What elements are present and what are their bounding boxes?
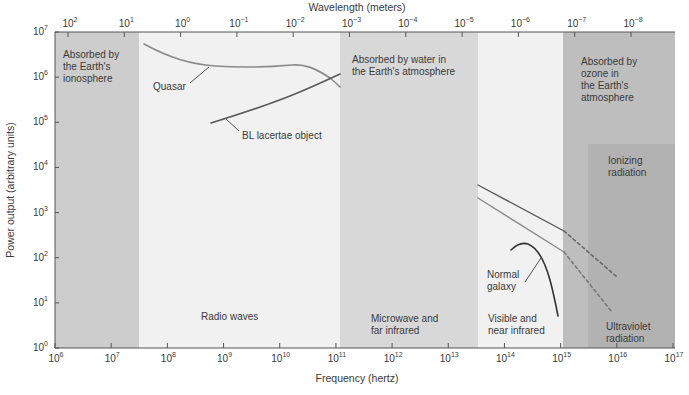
x2-tick-label: 101 [119,16,134,29]
x2-tick-label: 10−7 [567,16,586,29]
label-radio: Radio waves [201,311,258,322]
x-tick-label: 1014 [496,351,515,364]
x2-tick-label: 100 [175,16,190,29]
x2-tick-label: 10−4 [398,16,417,29]
y-tick-label: 107 [33,24,48,37]
x-tick-label: 106 [48,351,63,364]
band-water-microwave [340,32,478,348]
x-tick-label: 1017 [665,351,684,364]
x2-tick-label: 10−3 [342,16,361,29]
y-tick-label: 106 [33,69,48,82]
x2-tick-label: 10−1 [229,16,248,29]
label-visible: Visible and near infrared [488,313,545,336]
y-tick-label: 104 [33,159,48,172]
band-radio [139,32,340,348]
y-tick-label: 103 [33,205,48,218]
label-quasar: Quasar [153,81,186,92]
x-tick-label: 109 [217,351,232,364]
x-tick-label: 1016 [608,351,627,364]
y-tick-label: 100 [33,340,48,353]
label-ozone: Absorbed by ozone in the Earth's atmosph… [581,56,640,103]
x2-tick-label: 10−6 [511,16,530,29]
y-tick-label: 101 [33,295,48,308]
y-axis-title: Power output (arbitrary units) [4,122,16,257]
y-tick-label: 105 [33,114,48,127]
label-bllac: BL lacertae object [242,130,322,141]
spectrum-chart: 1061071081091010101110121013101410151016… [0,0,689,395]
x2-tick-label: 10−5 [455,16,474,29]
x-tick-label: 1015 [552,351,571,364]
x-tick-label: 107 [105,351,120,364]
label-water: Absorbed by water in the Earth's atmosph… [352,54,456,77]
x-tick-label: 1013 [440,351,459,364]
x-tick-label: 1011 [328,351,346,364]
label-ionizing: Ionizing radiation [608,155,646,178]
x-tick-label: 1010 [271,351,290,364]
x-tick-label: 1012 [384,351,403,364]
band-visible [478,32,563,348]
x-axis-title: Frequency (hertz) [316,372,399,384]
x2-tick-label: 10−2 [286,16,305,29]
y-tick-label: 102 [33,250,48,263]
x2-tick-label: 10−8 [623,16,642,29]
x2-tick-label: 102 [62,16,77,29]
x-tick-label: 108 [161,351,176,364]
x2-axis-title: Wavelength (meters) [308,1,405,13]
